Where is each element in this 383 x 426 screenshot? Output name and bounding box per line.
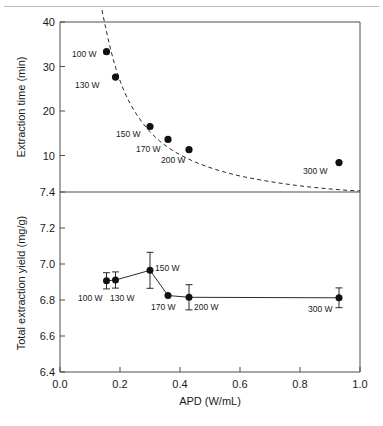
- bottom-label-200w: 200 W: [194, 302, 219, 312]
- bottom-y-tick-6-4: 6.4: [40, 366, 55, 378]
- bottom-y-tick-6-6: 6.6: [40, 330, 55, 342]
- bottom-label-100w: 100 W: [78, 293, 103, 303]
- top-y-tick-30: 30: [43, 61, 55, 73]
- bottom-panel-x-ticks: [60, 367, 360, 372]
- bottom-panel-error-bars: [103, 252, 343, 310]
- top-label-130w: 130 W: [75, 80, 100, 90]
- two-panel-chart: 40 30 20 10 100 W 130 W 150 W 170 W 200 …: [0, 0, 383, 410]
- figure-container: 40 30 20 10 100 W 130 W 150 W 170 W 200 …: [0, 0, 383, 426]
- data-point-150w-time: [146, 123, 153, 130]
- bottom-panel-series-line: [107, 270, 340, 298]
- top-panel-trend-curve: [102, 10, 360, 191]
- data-point-300w-time: [335, 159, 342, 166]
- x-tick-1-0: 1.0: [352, 378, 367, 390]
- bottom-label-130w: 130 W: [110, 293, 135, 303]
- data-point-130w-yield: [112, 277, 119, 284]
- top-y-tick-20: 20: [43, 105, 55, 117]
- data-point-150w-yield: [147, 267, 154, 274]
- bottom-y-tick-7-0: 7.0: [40, 258, 55, 270]
- bottom-y-tick-7-4: 7.4: [40, 186, 55, 198]
- bottom-y-tick-6-8: 6.8: [40, 294, 55, 306]
- data-point-100w-time: [103, 48, 110, 55]
- data-point-200w-time: [185, 146, 192, 153]
- data-point-100w-yield: [103, 277, 110, 284]
- data-point-130w-time: [112, 74, 119, 81]
- top-label-200w: 200 W: [161, 155, 186, 165]
- top-divider-rule: [4, 6, 379, 7]
- bottom-label-150w: 150 W: [155, 263, 180, 273]
- bottom-label-170w: 170 W: [151, 302, 176, 312]
- data-point-200w-yield: [186, 294, 193, 301]
- figure-caption-partial: [6, 414, 378, 426]
- bottom-y-tick-7-2: 7.2: [40, 222, 55, 234]
- x-tick-0-8: 0.8: [292, 378, 307, 390]
- x-tick-0-6: 0.6: [232, 378, 247, 390]
- data-point-170w-yield: [165, 292, 172, 299]
- top-label-300w: 300 W: [303, 166, 328, 176]
- data-point-170w-time: [164, 136, 171, 143]
- top-label-100w: 100 W: [72, 49, 97, 59]
- x-axis-title: APD (W/mL): [179, 395, 241, 407]
- top-label-150w: 150 W: [116, 129, 141, 139]
- bottom-panel-y-axis-title: Total extraction yield (mg/g): [15, 216, 27, 351]
- top-panel-y-axis-title: Extraction time (min): [15, 57, 27, 158]
- x-tick-0-2: 0.2: [112, 378, 127, 390]
- top-panel-y-ticks: [60, 22, 65, 156]
- x-tick-0-0: 0.0: [52, 378, 67, 390]
- bottom-panel-y-ticks: [60, 192, 65, 372]
- bottom-label-300w: 300 W: [308, 304, 333, 314]
- top-panel: 40 30 20 10 100 W 130 W 150 W 170 W 200 …: [15, 10, 360, 192]
- top-y-tick-40: 40: [43, 16, 55, 28]
- bottom-panel: 7.4 7.2 7.0 6.8 6.6 6.4 0.0 0.2 0.4 0.6 …: [15, 186, 368, 407]
- top-y-tick-10: 10: [43, 150, 55, 162]
- x-tick-0-4: 0.4: [172, 378, 187, 390]
- bottom-panel-data-points: [103, 267, 343, 302]
- data-point-300w-yield: [336, 294, 343, 301]
- top-label-170w: 170 W: [136, 144, 161, 154]
